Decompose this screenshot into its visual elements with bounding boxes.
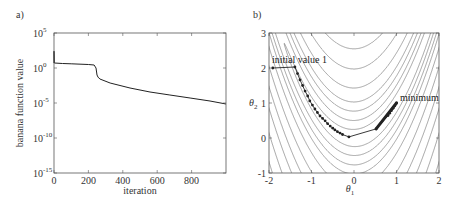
path-point	[339, 132, 342, 135]
annotation-initial-value: initial value 1	[272, 54, 327, 65]
panel-a-curve	[54, 51, 226, 104]
y-tick-label: 10-10	[33, 131, 53, 144]
panel-b-label: b)	[253, 9, 261, 21]
path-point	[336, 130, 339, 133]
path-point	[324, 119, 327, 122]
path-point	[308, 100, 311, 103]
contour-line	[256, 0, 452, 174]
figure: a) 10510010-510-1010-15 0200400600800 it…	[0, 0, 458, 205]
contour-line	[256, 0, 452, 156]
path-point	[296, 72, 299, 75]
annotation-minimum: minimum	[400, 92, 439, 103]
panel-a-y-axis-label: banana function value	[14, 58, 25, 147]
path-point	[316, 111, 319, 114]
y-tick-label: 10-15	[33, 166, 53, 179]
converged-segment	[376, 103, 396, 129]
contour-line	[256, 0, 452, 102]
y-tick-label: 100	[33, 61, 47, 74]
x-tick-label: 0	[52, 175, 57, 186]
panel-a-label: a)	[16, 9, 24, 21]
contour-line	[256, 0, 452, 27]
y-tick-label: 105	[33, 26, 47, 39]
panel-a: a) 10510010-510-1010-15 0200400600800 it…	[14, 9, 226, 196]
path-point	[319, 115, 322, 118]
x-tick-label: 200	[81, 175, 96, 186]
path-point	[341, 133, 344, 136]
x-tick-label: 1	[394, 175, 399, 186]
path-point	[334, 129, 337, 132]
panel-a-plot-area	[54, 51, 226, 104]
panel-a-axes-box	[54, 33, 226, 173]
panel-b: b) -10123 -2-1012 initial value 1 minimu…	[249, 0, 452, 205]
path-point	[306, 95, 309, 98]
y-tick-label: 0	[261, 133, 266, 144]
x-tick-label: -1	[307, 175, 315, 186]
path-point	[326, 122, 329, 125]
panel-b-y-axis-label: θ2	[249, 97, 258, 111]
path-point	[329, 125, 332, 128]
y-tick-label: 3	[261, 28, 266, 39]
x-tick-label: 2	[437, 175, 442, 186]
panel-a-x-axis-label: iteration	[123, 185, 156, 196]
x-tick-label: -2	[265, 175, 273, 186]
path-point	[301, 84, 304, 87]
contour-line	[256, 0, 452, 3]
path-point	[314, 108, 317, 111]
panel-a-x-tick-labels: 0200400600800	[52, 33, 200, 186]
path-point	[299, 79, 302, 82]
y-tick-label: 2	[261, 63, 266, 74]
path-point	[348, 136, 351, 139]
contour-line	[256, 0, 452, 49]
x-tick-label: 0	[352, 175, 357, 186]
y-tick-label: 10-5	[33, 96, 49, 109]
panel-a-y-tick-labels: 10510010-510-1010-15	[33, 26, 226, 179]
path-point	[321, 117, 324, 120]
path-point	[311, 104, 314, 107]
y-tick-label: 1	[261, 98, 266, 109]
path-point	[294, 66, 297, 69]
path-point	[304, 90, 307, 93]
x-tick-label: 800	[184, 175, 199, 186]
